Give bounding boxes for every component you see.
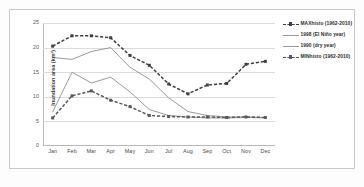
- legend-label: 1990 (dry year): [301, 44, 336, 49]
- data-point-marker: [206, 83, 209, 86]
- data-point-marker: [90, 89, 93, 92]
- data-point-marker: [225, 82, 228, 85]
- x-axis-ticks: JanFebMarAprMayJunJulAugSepOctNovDec: [43, 148, 275, 160]
- legend-item[interactable]: 1998 (El Niño year): [283, 30, 363, 41]
- data-point-marker: [71, 34, 74, 37]
- y-tick-label: 0: [17, 143, 39, 148]
- data-point-marker: [187, 92, 190, 95]
- x-tick-label: Dec: [260, 149, 270, 154]
- x-tick-label: Sep: [202, 149, 212, 154]
- series-line: [53, 36, 266, 94]
- y-axis-title: Inundation area (km²): [51, 24, 56, 132]
- data-point-marker: [264, 116, 267, 119]
- y-tick-label: 20: [17, 45, 39, 50]
- data-point-marker: [167, 115, 170, 118]
- x-tick-label: Nov: [241, 149, 251, 154]
- data-point-marker: [129, 54, 132, 57]
- legend-swatch-icon: [283, 21, 299, 28]
- data-point-marker: [148, 114, 151, 117]
- legend-swatch-icon: [283, 54, 299, 61]
- series-line: [53, 91, 266, 118]
- data-point-marker: [167, 83, 170, 86]
- data-point-marker: [71, 94, 74, 97]
- x-tick-label: Jul: [165, 149, 172, 154]
- data-point-marker: [245, 115, 248, 118]
- y-tick-label: 15: [17, 70, 39, 75]
- x-tick-label: Feb: [67, 149, 77, 154]
- series-line: [53, 72, 266, 118]
- x-tick-label: Aug: [183, 149, 193, 154]
- series-line: [53, 48, 266, 118]
- y-axis-ticks: 0510152025: [15, 23, 39, 146]
- legend-swatch-icon: [283, 32, 299, 39]
- data-point-marker: [90, 34, 93, 37]
- data-point-marker: [129, 105, 132, 108]
- x-tick-label: Apr: [106, 149, 115, 154]
- y-tick-label: 25: [17, 20, 39, 25]
- y-tick-label: 5: [17, 119, 39, 124]
- plot-area: Inundation area (km²): [43, 23, 275, 146]
- data-point-marker: [148, 64, 151, 67]
- legend-item[interactable]: MAXhisto (1962-2010): [283, 19, 363, 30]
- x-tick-label: Mar: [87, 149, 97, 154]
- data-point-marker: [206, 115, 209, 118]
- legend-swatch-icon: [283, 43, 299, 50]
- legend-item[interactable]: MINhisto (1962-2010): [283, 52, 363, 63]
- data-point-marker: [225, 116, 228, 119]
- chart-legend: MAXhisto (1962-2010)1998 (El Niño year)1…: [283, 19, 363, 63]
- x-tick-label: May: [125, 149, 135, 154]
- legend-label: 1998 (El Niño year): [301, 33, 346, 38]
- y-tick-label: 10: [17, 94, 39, 99]
- x-tick-label: Jun: [145, 149, 154, 154]
- data-point-marker: [264, 60, 267, 63]
- x-tick-label: Jan: [48, 149, 57, 154]
- data-point-marker: [187, 115, 190, 118]
- chart-figure: 0510152025 Inundation area (km²) JanFebM…: [0, 0, 364, 187]
- x-tick-label: Oct: [222, 149, 231, 154]
- legend-item[interactable]: 1990 (dry year): [283, 41, 363, 52]
- data-point-marker: [109, 99, 112, 102]
- legend-label: MINhisto (1962-2010): [301, 55, 351, 60]
- series-layer: [43, 23, 275, 146]
- data-point-marker: [109, 36, 112, 39]
- legend-label: MAXhisto (1962-2010): [301, 22, 353, 27]
- data-point-marker: [245, 63, 248, 66]
